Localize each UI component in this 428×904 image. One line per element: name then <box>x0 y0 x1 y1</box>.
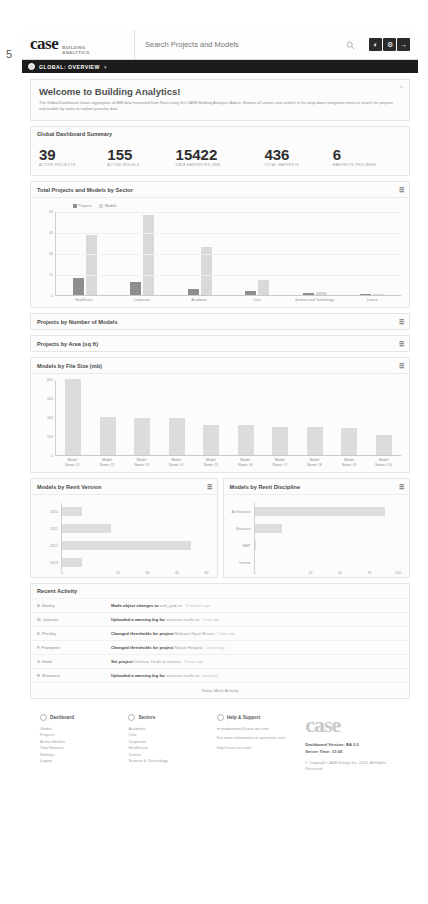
footer-link[interactable]: Logout <box>40 758 122 764</box>
bar[interactable] <box>134 418 150 455</box>
dashboard-version: Dashboard Version: BA 2.0 <box>305 742 400 749</box>
bar-group[interactable] <box>56 379 91 455</box>
bar[interactable] <box>272 427 288 456</box>
bar[interactable] <box>258 280 269 295</box>
category-label: 2010 <box>39 510 61 514</box>
bar[interactable] <box>255 507 385 516</box>
bar[interactable] <box>341 428 357 455</box>
activity-title: Recent Activity <box>37 588 77 594</box>
bar-row[interactable]: MEP <box>232 537 402 554</box>
bar[interactable] <box>307 427 323 455</box>
activity-target[interactable]: Chelsea Yards to inactive <box>134 659 181 664</box>
bar[interactable] <box>130 282 141 295</box>
support-url[interactable]: http://case-inc.com/ <box>217 745 299 751</box>
support-email[interactable]: m.mobasman@case-inc.com <box>217 726 299 731</box>
chart-body-sector: Projects Models 015304560 HealthcareCorp… <box>31 198 409 307</box>
activity-text: Changed thresholds for project Midtown H… <box>111 631 403 636</box>
brand-logo[interactable]: case BUILDING ANALYTICS <box>30 34 134 55</box>
stat-label: HARVESTS THIS WEEK <box>333 163 401 167</box>
footer-link[interactable]: Science & Technology <box>128 758 210 764</box>
drag-handle-icon[interactable]: ☰ <box>207 483 211 490</box>
drag-handle-icon[interactable]: ☰ <box>399 362 403 369</box>
activity-row[interactable]: S. HotelSet project Chelsea Yards to ina… <box>31 654 409 668</box>
collapsed-card-projects-by-area[interactable]: Projects by Area (sq ft) ☰ <box>30 335 410 352</box>
welcome-banner: × Welcome to Building Analytics! The Glo… <box>30 79 410 121</box>
bar-group[interactable] <box>125 418 160 455</box>
bar-group[interactable] <box>194 425 229 455</box>
bar-row[interactable]: 2010 <box>39 503 209 520</box>
bar-group[interactable] <box>114 215 172 295</box>
bar[interactable] <box>169 418 185 455</box>
bar-group[interactable] <box>229 425 264 455</box>
bar[interactable] <box>255 524 283 533</box>
bar-row[interactable]: Architecture <box>232 503 402 520</box>
bar-row[interactable]: 2011 <box>39 520 209 537</box>
activity-row[interactable]: P. FramptonChanged thresholds for projec… <box>31 640 409 654</box>
bar-track <box>61 520 209 537</box>
search-bar[interactable] <box>134 30 363 59</box>
x-tick-label: ModelName #1 <box>55 456 90 468</box>
bar-group[interactable] <box>263 427 298 456</box>
bar-group[interactable] <box>298 427 333 455</box>
bar-group[interactable] <box>91 417 126 455</box>
logout-button[interactable]: → <box>397 38 410 51</box>
activity-row[interactable]: R. RomanceUploaded a warning log for str… <box>31 668 409 682</box>
drag-handle-icon[interactable]: ☰ <box>399 340 403 347</box>
legend-label: Models <box>105 204 117 208</box>
bar[interactable] <box>73 278 84 295</box>
bar[interactable] <box>238 425 254 455</box>
search-input[interactable] <box>145 40 363 49</box>
activity-target[interactable]: structure-north.rvt <box>166 617 199 622</box>
x-tick-label: ModelName #5 <box>193 456 228 468</box>
activity-time: 2 hours ago <box>205 646 224 650</box>
chart-body-discipline: ArchitectureStructureMEPInterior 0255075… <box>224 495 410 577</box>
bar-group[interactable] <box>229 280 287 295</box>
show-more-activity-button[interactable]: Show More Activity <box>31 682 409 698</box>
bar[interactable] <box>86 235 97 295</box>
bar[interactable] <box>143 215 154 295</box>
chevron-down-icon[interactable]: ▾ <box>104 64 107 70</box>
bar-group[interactable] <box>56 235 114 295</box>
bar[interactable] <box>100 417 116 455</box>
stat-value: 39 <box>39 146 107 163</box>
bar[interactable] <box>62 541 191 550</box>
collapsed-card-header: Projects by Number of Models ☰ <box>31 314 409 329</box>
bar[interactable] <box>255 541 256 550</box>
activity-target[interactable]: wall_grid.rvt <box>160 603 182 608</box>
bar[interactable] <box>376 435 392 455</box>
breadcrumb[interactable]: GLOBAL: OVERVIEW ▾ <box>22 60 418 73</box>
bar[interactable] <box>62 558 82 567</box>
activity-row[interactable]: B. MarleyMade object changes to wall_gri… <box>31 598 409 612</box>
bar-track <box>254 537 402 554</box>
activity-row[interactable]: E. PresleyChanged thresholds for project… <box>31 626 409 640</box>
bar-row[interactable]: 2012 <box>39 537 209 554</box>
activity-target[interactable]: structure-north.rvt <box>166 673 199 678</box>
bar[interactable] <box>65 379 81 455</box>
bar-group[interactable] <box>367 435 402 455</box>
notifications-button[interactable]: ◐ <box>369 38 382 51</box>
y-tick: 15 <box>49 273 53 277</box>
activity-target[interactable]: Midtown Hyatt Resort <box>175 631 215 636</box>
settings-button[interactable]: ⚙ <box>383 38 396 51</box>
stat-value: 436 <box>264 146 332 163</box>
drag-handle-icon[interactable]: ☰ <box>399 186 403 193</box>
activity-target[interactable]: Nyack Hospital <box>175 645 203 650</box>
x-tick: 30 <box>120 571 150 575</box>
category-label: 2012 <box>39 544 61 548</box>
bar-group[interactable] <box>160 418 195 455</box>
bar[interactable] <box>62 507 82 516</box>
activity-row[interactable]: M. JacksonUploaded a warning log for str… <box>31 612 409 626</box>
bar[interactable] <box>203 425 219 455</box>
bar-group[interactable] <box>332 428 367 455</box>
bar[interactable] <box>62 524 111 533</box>
chart-card-sector: Total Projects and Models by Sector ☰ Pr… <box>30 181 410 308</box>
drag-handle-icon[interactable]: ☰ <box>399 318 403 325</box>
bar-row[interactable]: 2013 <box>39 554 209 571</box>
close-icon[interactable]: × <box>400 84 403 90</box>
bar-row[interactable]: Interior <box>232 554 402 571</box>
collapsed-card-projects-by-models[interactable]: Projects by Number of Models ☰ <box>30 313 410 330</box>
drag-handle-icon[interactable]: ☰ <box>399 483 403 490</box>
activity-text: Uploaded a warning log for structure-nor… <box>111 673 403 678</box>
bar-row[interactable]: Structure <box>232 520 402 537</box>
search-icon[interactable] <box>346 36 355 54</box>
